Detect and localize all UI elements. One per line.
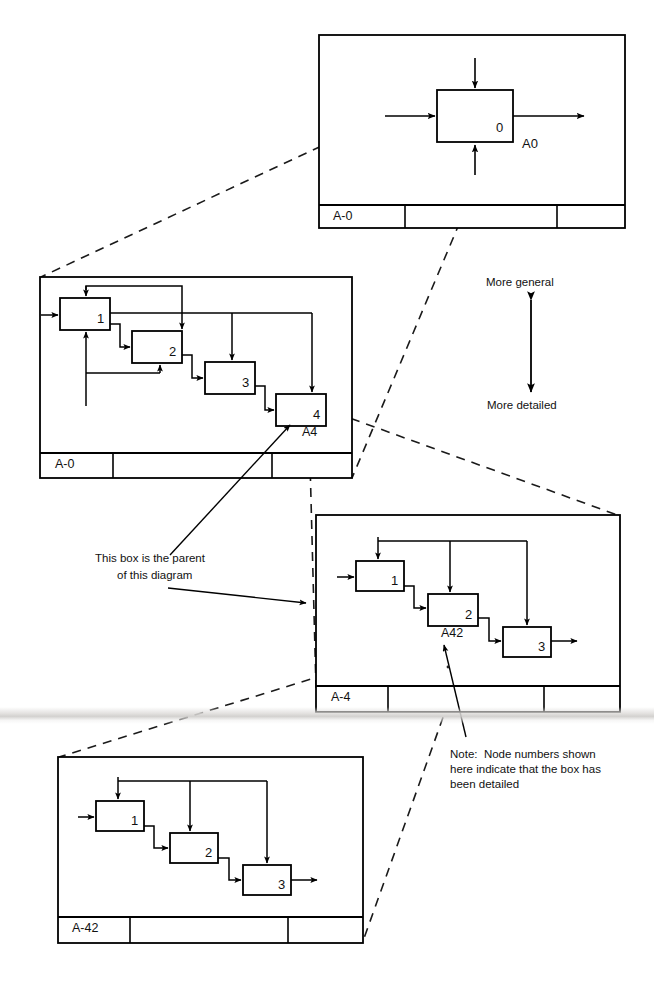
parent-note-line-2: of this diagram [117, 568, 192, 582]
a42-box-1-number: 1 [131, 814, 138, 828]
leader-parent-diagram [168, 588, 306, 603]
parent-note-line-1: This box is the parent [95, 551, 205, 565]
a4-box-2-detail-ref: A42 [441, 626, 463, 640]
a42-box-2-number: 2 [205, 846, 212, 860]
context-box-detail-ref: A0 [522, 137, 538, 151]
context-box-number: 0 [496, 121, 503, 135]
more-general-label: More general [486, 275, 554, 289]
context-title-block-node: A-0 [333, 209, 352, 223]
a42-title-block-node: A-42 [72, 921, 98, 935]
diagram-page: 0 A0 A-0 1 2 3 4 A4 A-0 1 2 3 A42 A-4 1 … [0, 0, 654, 992]
scan-artifact-dot [447, 666, 450, 669]
connector-a0box4-to-a4-upper [336, 413, 620, 516]
a42-box-3-number: 3 [278, 878, 285, 892]
a0-box-1-number: 1 [97, 312, 104, 326]
a0-box-3-number: 3 [242, 376, 249, 390]
a4-box-1-number: 1 [391, 574, 398, 588]
a0-title-block-node: A-0 [55, 457, 74, 471]
a0-box-2-number: 2 [169, 345, 176, 359]
node-note-line-3: been detailed [450, 777, 519, 791]
a0-box-4-number: 4 [313, 408, 320, 422]
node-note-line-1: Note: Node numbers shown [450, 747, 596, 761]
a4-title-block-node: A-4 [331, 690, 350, 704]
a4-box-3-number: 3 [538, 640, 545, 654]
a4-box-2-number: 2 [465, 608, 472, 622]
node-note-line-2: here indicate that the box has [450, 762, 601, 776]
a0-box-4-detail-ref: A4 [302, 425, 317, 439]
more-detailed-label: More detailed [487, 398, 557, 412]
idef0-decomposition-svg [0, 0, 654, 992]
